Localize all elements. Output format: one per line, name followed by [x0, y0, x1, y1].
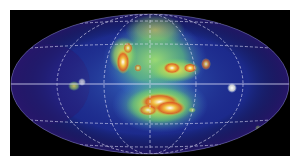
sky-content — [10, 10, 290, 156]
all-sky-map — [10, 10, 290, 156]
sky-map-frame — [10, 10, 290, 156]
